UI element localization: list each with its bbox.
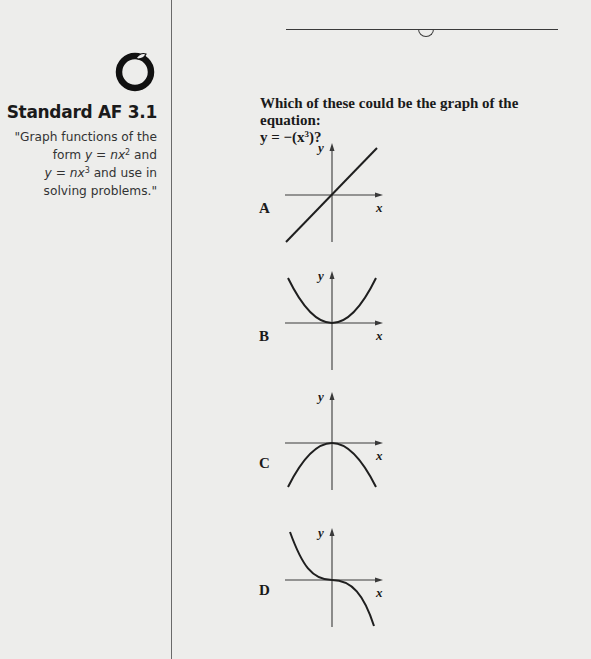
x-axis-label: x — [375, 328, 383, 343]
standard-desc-line: solving problems." — [7, 182, 157, 200]
choice-a-graph[interactable]: y x — [280, 140, 390, 250]
standard-desc-line: "Graph functions of the — [7, 128, 157, 146]
question-text: Which of these could be the graph of the… — [260, 95, 580, 129]
y-axis-arrow-icon — [330, 271, 335, 279]
choice-a-label[interactable]: A — [259, 200, 270, 217]
apple-icon — [114, 48, 156, 92]
top-rule-notch — [418, 29, 434, 37]
y-axis-arrow-icon — [330, 392, 335, 400]
y-axis-label: y — [316, 525, 324, 540]
standard-description: "Graph functions of the form y = nx2 and… — [7, 128, 157, 200]
x-axis-arrow-icon — [375, 193, 383, 198]
question-prompt: Which of these could be the graph of the… — [260, 95, 580, 146]
choice-b-label[interactable]: B — [259, 328, 269, 345]
x-axis-label: x — [375, 200, 383, 215]
x-axis-arrow-icon — [375, 578, 383, 583]
x-axis-label: x — [375, 585, 383, 600]
column-divider — [171, 0, 172, 659]
choice-b-graph[interactable]: y x — [280, 268, 390, 378]
choice-d-graph[interactable]: y x — [280, 525, 390, 635]
choice-c-label[interactable]: C — [259, 455, 270, 472]
x-axis-arrow-icon — [375, 321, 383, 326]
y-axis-arrow-icon — [330, 143, 335, 151]
choice-c-graph[interactable]: y x — [280, 389, 390, 499]
standard-desc-line: form y = nx2 and — [7, 146, 157, 164]
standard-title: Standard AF 3.1 — [7, 102, 157, 122]
y-axis-arrow-icon — [330, 528, 335, 536]
y-axis-label: y — [316, 389, 324, 404]
choice-d-label[interactable]: D — [259, 582, 270, 599]
x-axis-label: x — [375, 448, 383, 463]
y-axis-label: y — [316, 268, 324, 283]
y-axis-label: y — [316, 140, 324, 155]
x-axis-arrow-icon — [375, 441, 383, 446]
standard-desc-line: y = nx3 and use in — [7, 164, 157, 182]
